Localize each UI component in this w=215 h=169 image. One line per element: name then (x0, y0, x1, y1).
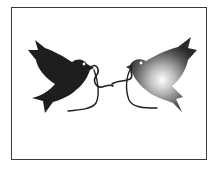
right-dove-eye-icon (140, 62, 143, 65)
doves-illustration (0, 0, 215, 169)
left-dove-icon (28, 40, 94, 113)
right-dove-icon (126, 37, 197, 112)
left-dove-eye-icon (83, 63, 86, 66)
